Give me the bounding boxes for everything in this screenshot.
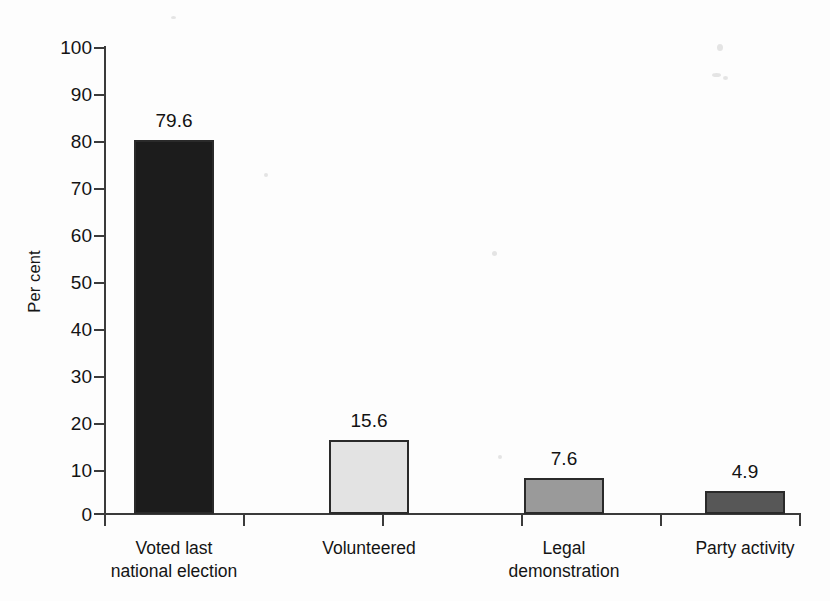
category-label-party-activity: Party activity xyxy=(645,537,830,560)
bar-voted-last-national-election xyxy=(134,140,214,514)
bar-value-legal-demonstration: 7.6 xyxy=(551,449,577,468)
bar-value-voted-last-national-election: 79.6 xyxy=(156,111,193,130)
plot-area: 79.6 15.6 7.6 4.9 xyxy=(0,0,830,601)
bar-legal-demonstration xyxy=(524,478,604,514)
bar-party-activity xyxy=(705,491,785,514)
bar-chart: Per cent 100 90 80 70 60 50 40 30 20 10 … xyxy=(0,0,830,601)
bar-volunteered xyxy=(329,440,409,514)
category-label-voted-last-national-election: Voted last national election xyxy=(59,537,289,583)
bar-value-volunteered: 15.6 xyxy=(351,411,388,430)
bar-value-party-activity: 4.9 xyxy=(732,462,758,481)
category-label-volunteered: Volunteered xyxy=(269,537,469,560)
category-label-legal-demonstration: Legal demonstration xyxy=(459,537,669,583)
